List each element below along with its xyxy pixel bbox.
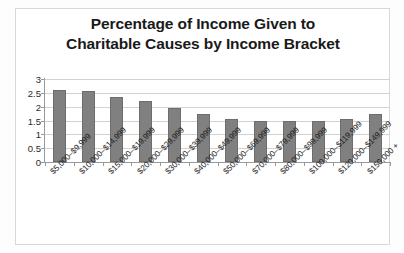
bar: [369, 114, 382, 162]
x-axis-tick-mark: [189, 162, 190, 166]
x-axis-tick-mark: [103, 162, 104, 166]
x-axis-tick-mark: [160, 162, 161, 166]
x-axis-tick-mark: [304, 162, 305, 166]
x-axis-tick-mark: [218, 162, 219, 166]
gridline: [45, 134, 390, 135]
chart-title-line-2: Charitable Causes by Income Bracket: [18, 34, 388, 54]
chart-title-line-1: Percentage of Income Given to: [18, 14, 388, 34]
x-axis-tick-mark: [275, 162, 276, 166]
y-axis: 00.511.522.53: [0, 0, 41, 253]
x-axis-tick-mark: [74, 162, 75, 166]
gridline: [45, 107, 390, 108]
gridline: [45, 93, 390, 94]
bar: [53, 90, 66, 162]
gridline: [45, 121, 390, 122]
bar: [197, 114, 210, 162]
x-axis-tick-mark: [390, 162, 391, 166]
x-axis-tick-mark: [361, 162, 362, 166]
y-axis-tick-label: 1: [1, 129, 41, 140]
x-axis-tick-mark: [45, 162, 46, 166]
y-axis-tick-label: 0.5: [1, 143, 41, 154]
plot-area: [45, 79, 390, 162]
chart-title: Percentage of Income Given to Charitable…: [18, 14, 388, 54]
bar: [225, 119, 238, 162]
bar: [254, 121, 267, 163]
x-axis-tick-mark: [333, 162, 334, 166]
y-axis-tick-label: 2.5: [1, 87, 41, 98]
gridline: [45, 148, 390, 149]
x-axis-tick-mark: [246, 162, 247, 166]
bar: [168, 108, 181, 162]
chart-figure: Percentage of Income Given to Charitable…: [0, 0, 404, 253]
bar: [82, 91, 95, 162]
y-axis-tick-label: 3: [1, 74, 41, 85]
bar: [139, 101, 152, 162]
x-axis-tick-mark: [131, 162, 132, 166]
bar: [283, 121, 296, 163]
y-axis-tick-label: 1.5: [1, 115, 41, 126]
bar: [312, 121, 325, 163]
y-axis-tick-label: 0: [1, 157, 41, 168]
bar: [110, 97, 123, 162]
gridline: [45, 79, 390, 80]
y-axis-tick-label: 2: [1, 101, 41, 112]
bar: [340, 119, 353, 162]
